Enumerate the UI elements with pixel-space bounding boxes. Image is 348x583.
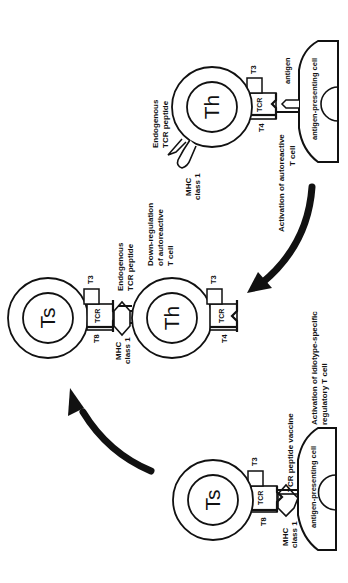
tcr-receptor-bottom: TCR [251,486,282,512]
th-cell-top: Th [172,67,252,147]
caption-down-regulation-3: T cell [166,246,175,266]
mhc-label-1: MHC [281,528,290,546]
t3-label-th: T3 [209,275,218,284]
caption-down-regulation-2: of autoreactive [156,209,165,266]
t3-molecule-th [207,289,222,304]
apc-label: antigen-presenting cell [310,58,319,140]
antigen-presenting-cell-top: antigen-presenting cell [299,41,338,162]
diagram-canvas: antigen-presenting cell TCR T3 T4 antige… [0,0,348,583]
t3-label: T3 [250,457,259,466]
tcr-label: TCR [257,491,264,505]
t8-label: T8 [259,517,268,526]
cell-label-th: Th [160,306,183,331]
caption-down-regulation-1: Down-regulation [146,203,155,266]
th-cell-middle: Th [132,278,212,358]
mhc-class1-top [168,139,196,168]
endogenous-label-2: TCR peptide [126,243,135,291]
caption-activation-autoreactive-2: T cell [288,146,297,166]
mhc-label-2: class 1 [123,337,132,364]
antigen-shape [282,100,299,108]
t4-label-th: T4 [220,333,229,343]
cell-label-ts: Ts [201,490,224,511]
mhc-label-1: MHC [184,178,193,196]
tcr-label: TCR [218,309,225,323]
mhc-class1-middle [114,302,132,335]
tcr-label: TCR [94,309,101,323]
t8-label-ts: T8 [92,334,101,343]
stage-2-down-regulation: Th TCR T3 T4 Ts TCR T3 T8 [8,203,237,364]
t3-label-ts: T3 [86,275,95,284]
caption-activation-regulatory-1: Activation of idiotype-specific [310,311,319,425]
apc-label: antigen-presenting cell [309,446,318,528]
antigen-presenting-cell-bottom: antigen-presenting cell [298,428,336,550]
cell-label-th: Th [200,95,223,120]
t4-label: T4 [257,122,266,132]
tcr-label: TCR [256,98,263,112]
cell-label-ts: Ts [36,308,59,329]
endogenous-label-2: TCR peptide [161,100,170,148]
endogenous-label-1: Endogenous [151,99,160,148]
endogenous-label-1: Endogenous [116,242,125,291]
ts-cell-bottom: Ts [173,460,253,540]
ts-cell-middle: Ts [8,278,88,358]
caption-activation-autoreactive-1: Activation of autoreactive [277,134,286,232]
tcr-receptor-top: TCR [250,93,276,119]
antigen-label: antigen [283,57,292,84]
mhc-label-2: class 1 [193,173,202,200]
t3-molecule-ts [84,289,99,304]
arrow-stage3-to-stage2 [68,388,151,471]
caption-activation-regulatory-2: regulatory T cell [320,363,329,425]
mhc-label-1: MHC [114,342,123,360]
t3-label: T3 [249,65,258,74]
vaccine-label: TCR peptide vaccine [286,413,295,492]
mhc-label-2: class 1 [290,521,299,548]
tcr-receptor-th-middle: TCR [210,300,237,332]
